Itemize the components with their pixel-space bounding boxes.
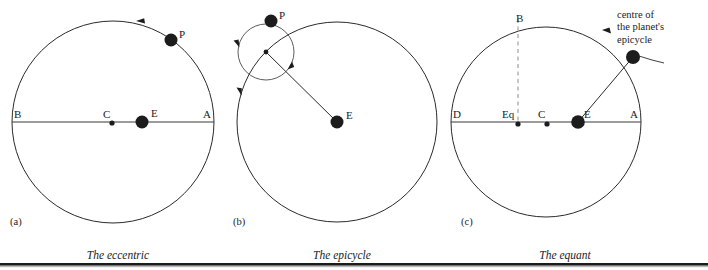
- callout-line-1: centre of: [617, 9, 664, 21]
- panel-c-point-eq: [515, 121, 520, 126]
- panel-b-epicycle-arrow-right-icon: [288, 62, 295, 70]
- bottom-rule: [0, 263, 708, 266]
- epicycle-centre-callout: centre of the planet's epicycle: [617, 9, 664, 46]
- panel-a-point-p: [165, 34, 178, 47]
- panel-c-label-e: E: [584, 109, 591, 120]
- callout-line-2: the planet's: [617, 21, 664, 33]
- caption-equant: The equant: [495, 249, 635, 261]
- panel-c-point-e: [571, 115, 585, 129]
- panel-c-letter: (c): [461, 216, 473, 227]
- panel-a-label-c: C: [103, 109, 110, 120]
- panel-c-label-a: A: [630, 109, 638, 120]
- panel-a-deferent-arrow-icon: [136, 18, 145, 23]
- panel-c-label-b: B: [516, 13, 523, 24]
- panel-b-radius-line: [266, 52, 337, 122]
- panel-c-label-eq: Eq: [502, 109, 514, 120]
- figure-canvas: [0, 0, 708, 270]
- panel-b-point-p: [265, 15, 278, 28]
- panel-a-eccentric: [12, 18, 214, 223]
- panel-b-letter: (b): [233, 216, 245, 227]
- panel-a-point-c: [109, 120, 114, 125]
- panel-a-label-e: E: [151, 108, 158, 119]
- panel-b-label-e: E: [346, 110, 353, 121]
- panel-b-epicycle: [234, 15, 437, 223]
- caption-eccentric: The eccentric: [48, 249, 188, 261]
- panel-b-label-p: P: [279, 10, 285, 21]
- panel-c-label-d: D: [453, 109, 461, 120]
- panel-b-epicycle-centre-dot: [264, 50, 269, 55]
- panel-a-letter: (a): [10, 216, 22, 227]
- panel-c-point-c: [544, 121, 549, 126]
- panel-a-point-e: [136, 116, 149, 129]
- bottom-rule-shadow: [0, 266, 708, 267]
- panel-a-label-p: P: [179, 29, 185, 40]
- panel-c-callout-leader-line: [639, 56, 664, 63]
- callout-line-3: epicycle: [617, 34, 664, 46]
- panel-b-epicycle-arrow-left-icon: [234, 40, 240, 48]
- panel-c-epicycle-centre-dot: [626, 50, 640, 64]
- panel-a-label-b: B: [14, 109, 21, 120]
- figure-root: B C E A P (a) P E (b) D Eq C E A B (c) c…: [0, 0, 708, 270]
- panel-c-label-c: C: [538, 109, 545, 120]
- caption-epicycle: The epicycle: [272, 249, 412, 261]
- panel-a-label-a: A: [203, 109, 211, 120]
- panel-c-deferent-arrow-icon: [602, 28, 611, 34]
- panel-b-point-e: [331, 116, 344, 129]
- panel-b-deferent-arrow-icon: [237, 88, 242, 96]
